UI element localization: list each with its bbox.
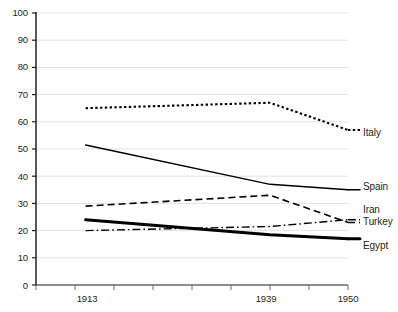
series-lines	[86, 103, 360, 239]
line-chart: 100 90 80 70 60 50 40 30 20 10 0 1913 19…	[0, 0, 398, 312]
series-line-iran	[86, 195, 348, 222]
series-line-spain	[86, 145, 348, 190]
plot-area	[0, 0, 398, 312]
x-axis-ticks	[36, 285, 348, 290]
series-line-italy	[86, 103, 348, 130]
axis-lines	[36, 12, 348, 285]
gridlines	[36, 13, 348, 258]
